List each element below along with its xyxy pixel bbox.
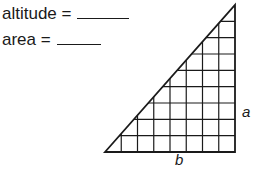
side-a-label: a xyxy=(242,103,250,120)
triangle-grid-figure xyxy=(0,0,259,170)
side-b-label: b xyxy=(175,151,183,168)
